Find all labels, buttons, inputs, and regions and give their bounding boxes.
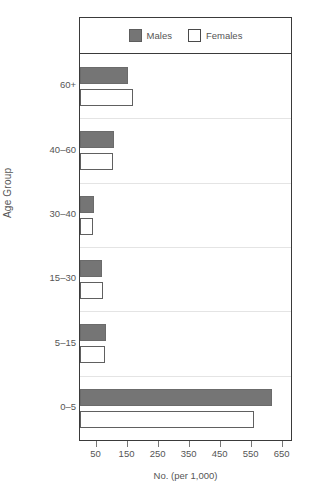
y-tick-label: 40–60	[30, 144, 76, 155]
x-axis-title: No. (per 1,000)	[79, 470, 292, 481]
x-tick-label: 350	[181, 448, 197, 459]
x-tick-mark	[158, 441, 159, 447]
bar-males-30-40	[80, 196, 94, 213]
x-tick-mark	[282, 441, 283, 447]
bar-females-40-60	[80, 153, 113, 170]
y-tick-label: 30–40	[30, 208, 76, 219]
bar-females-0-5	[80, 411, 254, 428]
legend-entry-females: Females	[188, 29, 242, 42]
plot-area	[80, 54, 291, 440]
legend-entry-males: Males	[129, 29, 172, 42]
plot-frame: Males Females	[79, 17, 292, 441]
age-group-band	[80, 183, 291, 247]
legend-label-males: Males	[147, 30, 172, 41]
bar-females-15-30	[80, 282, 103, 299]
x-tick-label: 550	[243, 448, 259, 459]
x-tick-mark	[251, 441, 252, 447]
bar-females-5-15	[80, 346, 105, 363]
x-tick-label: 250	[150, 448, 166, 459]
x-tick-label: 50	[90, 448, 101, 459]
x-tick-label: 650	[274, 448, 290, 459]
x-tick-label: 150	[119, 448, 135, 459]
bar-chart: Age Group 60+40–6030–4015–305–150–5 Male…	[0, 0, 317, 502]
x-tick-label: 450	[212, 448, 228, 459]
x-axis: 50150250350450550650	[79, 441, 292, 447]
age-group-band	[80, 118, 291, 182]
x-tick-mark	[96, 441, 97, 447]
chart-legend: Males Females	[80, 18, 291, 54]
legend-label-females: Females	[206, 30, 242, 41]
y-tick-label: 15–30	[30, 272, 76, 283]
y-axis-title: Age Group	[2, 108, 13, 218]
y-tick-label: 60+	[30, 79, 76, 90]
legend-swatch-females-icon	[188, 29, 201, 42]
age-group-band	[80, 247, 291, 311]
bar-males-60+	[80, 67, 128, 84]
x-tick-mark	[220, 441, 221, 447]
age-group-band	[80, 311, 291, 375]
x-tick-mark	[189, 441, 190, 447]
age-group-band	[80, 376, 291, 440]
y-tick-label: 0–5	[30, 401, 76, 412]
bar-females-30-40	[80, 218, 93, 235]
bar-males-15-30	[80, 260, 102, 277]
x-tick-mark	[127, 441, 128, 447]
legend-swatch-males-icon	[129, 29, 142, 42]
y-tick-label: 5–15	[30, 337, 76, 348]
y-axis-tick-labels: 60+40–6030–4015–305–150–5	[26, 0, 76, 502]
bar-males-0-5	[80, 389, 272, 406]
bar-females-60+	[80, 89, 133, 106]
age-group-band	[80, 54, 291, 118]
bar-males-40-60	[80, 131, 114, 148]
bar-males-5-15	[80, 324, 106, 341]
